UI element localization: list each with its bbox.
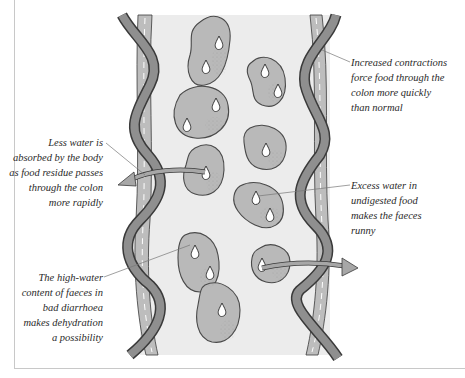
label-high-water-content: The high-water content of faeces in bad …	[22, 270, 103, 345]
label-line: makes the faeces	[351, 208, 422, 223]
label-line: Increased contractions	[351, 55, 447, 70]
label-line: a possibility	[22, 330, 103, 345]
label-line: undigested food	[351, 193, 422, 208]
label-line: content of faeces in	[22, 285, 103, 300]
label-line: more rapidly	[9, 195, 103, 210]
label-line: runny	[351, 223, 422, 238]
label-line: force food through the	[351, 70, 447, 85]
label-line: makes dehydration	[22, 315, 103, 330]
label-line: as food residue passes	[9, 165, 103, 180]
label-line: Less water is	[9, 135, 103, 150]
label-line: Excess water in	[351, 178, 422, 193]
label-line: bad diarrhoea	[22, 300, 103, 315]
label-line: than normal	[351, 100, 447, 115]
label-less-water-absorbed: Less water is absorbed by the body as fo…	[9, 135, 103, 210]
label-line: through the colon	[9, 180, 103, 195]
label-line: colon more quickly	[351, 85, 447, 100]
label-line: The high-water	[22, 270, 103, 285]
label-increased-contractions: Increased contractions force food throug…	[351, 55, 447, 115]
label-excess-water: Excess water in undigested food makes th…	[351, 178, 422, 238]
label-line: absorbed by the body	[9, 150, 103, 165]
